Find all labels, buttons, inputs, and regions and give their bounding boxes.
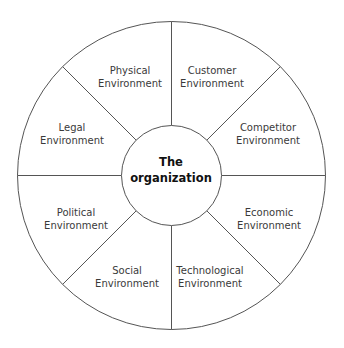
segment-label: Environment	[165, 277, 255, 290]
segment-technological: Technological Environment	[165, 264, 255, 290]
segment-economic: Economic Environment	[224, 206, 314, 232]
segment-label: Social	[82, 264, 172, 277]
segment-label: Political	[31, 206, 121, 219]
segment-label: Environment	[223, 134, 313, 147]
segment-label: Environment	[82, 277, 172, 290]
center-label: The organization	[121, 154, 221, 186]
segment-label: Economic	[224, 206, 314, 219]
segment-label: Competitor	[223, 121, 313, 134]
segment-label: Environment	[85, 77, 175, 90]
segment-label: Technological	[165, 264, 255, 277]
segment-political: Political Environment	[31, 206, 121, 232]
segment-legal: Legal Environment	[27, 121, 117, 147]
segment-social: Social Environment	[82, 264, 172, 290]
segment-label: Environment	[224, 219, 314, 232]
segment-label: Environment	[167, 77, 257, 90]
segment-label: Physical	[85, 64, 175, 77]
center-line-1: The	[121, 154, 221, 170]
segment-label: Customer	[167, 64, 257, 77]
segment-label: Environment	[27, 134, 117, 147]
segment-physical: Physical Environment	[85, 64, 175, 90]
segment-competitor: Competitor Environment	[223, 121, 313, 147]
segment-label: Legal	[27, 121, 117, 134]
segment-customer: Customer Environment	[167, 64, 257, 90]
center-line-2: organization	[121, 170, 221, 186]
segment-label: Environment	[31, 219, 121, 232]
